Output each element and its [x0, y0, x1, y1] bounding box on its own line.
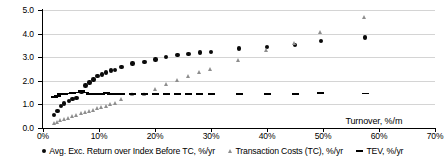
- data-point-circle: [104, 70, 108, 74]
- chart-legend: Avg. Exc. Return over Index Before TC, %…: [0, 146, 445, 156]
- data-point-dash: [118, 93, 125, 95]
- data-point-circle: [142, 60, 146, 64]
- legend-label-transaction-costs: Transaction Costs (TC), %/yr: [235, 146, 342, 156]
- data-point-dash: [264, 93, 271, 95]
- data-point-triangle: [62, 117, 66, 121]
- data-point-circle: [153, 57, 157, 61]
- data-point-triangle: [95, 106, 99, 110]
- y-tick-label: 1.0: [0, 100, 34, 109]
- data-point-circle: [62, 101, 66, 105]
- data-point-triangle: [119, 97, 123, 101]
- data-point-triangle: [197, 70, 201, 74]
- legend-label-avg-exc-return: Avg. Exc. Return over Index Before TC, %…: [49, 146, 215, 156]
- data-point-triangle: [113, 101, 117, 105]
- data-point-circle: [113, 68, 117, 72]
- data-point-circle: [209, 50, 213, 54]
- data-point-triangle: [99, 105, 103, 109]
- y-tick-label: 3.0: [0, 53, 34, 62]
- data-point-triangle: [74, 113, 78, 117]
- data-point-dash: [196, 93, 203, 95]
- data-point-circle: [119, 65, 123, 69]
- data-point-dash: [129, 93, 136, 95]
- legend-item-avg-exc-return: Avg. Exc. Return over Index Before TC, %…: [42, 146, 215, 156]
- x-tick-label: 0%: [23, 132, 63, 141]
- x-tick-label: 10%: [79, 132, 119, 141]
- x-axis-line: [42, 128, 436, 129]
- data-point-triangle: [208, 67, 212, 71]
- chart-container: 0.01.02.03.04.05.0 0%10%20%30%40%50%60%7…: [0, 0, 445, 163]
- data-point-dash: [163, 93, 170, 95]
- data-point-circle: [175, 53, 179, 57]
- data-point-triangle: [318, 30, 322, 34]
- data-point-triangle: [362, 15, 366, 19]
- x-tick-label: 20%: [135, 132, 175, 141]
- x-axis-title: Turnover, %/m: [345, 116, 402, 126]
- data-point-circle: [130, 61, 134, 65]
- legend-item-tev: TEV, %/yr: [356, 146, 403, 156]
- x-tick-label: 30%: [191, 132, 231, 141]
- data-point-dash: [317, 92, 324, 94]
- y-tick-label: 4.0: [0, 30, 34, 39]
- x-tick-label: 70%: [415, 132, 445, 141]
- data-point-triangle: [164, 82, 168, 86]
- circle-marker-icon: [42, 149, 46, 153]
- data-point-dash: [185, 93, 192, 95]
- data-point-triangle: [108, 102, 112, 106]
- data-point-dash: [152, 93, 159, 95]
- data-point-circle: [237, 46, 241, 50]
- y-tick-label: 2.0: [0, 77, 34, 86]
- x-tick-label: 50%: [303, 132, 343, 141]
- data-point-triangle: [104, 104, 108, 108]
- data-point-circle: [95, 74, 99, 78]
- data-point-triangle: [292, 41, 296, 45]
- data-point-triangle: [153, 87, 157, 91]
- triangle-marker-icon: [228, 149, 232, 153]
- data-point-circle: [198, 50, 202, 54]
- data-point-dash: [236, 93, 243, 95]
- data-point-dash: [362, 93, 369, 95]
- data-point-dash: [54, 95, 61, 97]
- y-tick-label: 5.0: [0, 6, 34, 15]
- data-point-dash: [208, 93, 215, 95]
- data-point-dash: [292, 93, 299, 95]
- data-point-dash: [141, 93, 148, 95]
- data-point-circle: [74, 96, 78, 100]
- dash-marker-icon: [356, 150, 363, 152]
- data-point-dash: [174, 93, 181, 95]
- x-tick-label: 40%: [247, 132, 287, 141]
- data-point-triangle: [175, 78, 179, 82]
- data-point-circle: [52, 113, 56, 117]
- legend-item-transaction-costs: Transaction Costs (TC), %/yr: [228, 146, 343, 156]
- data-point-circle: [164, 55, 168, 59]
- data-point-circle: [91, 77, 95, 81]
- data-point-circle: [319, 39, 323, 43]
- data-point-circle: [363, 35, 367, 39]
- data-point-triangle: [186, 74, 190, 78]
- x-tick-label: 60%: [359, 132, 399, 141]
- data-point-circle: [186, 52, 190, 56]
- data-point-triangle: [264, 48, 268, 52]
- data-point-triangle: [236, 58, 240, 62]
- legend-label-tev: TEV, %/yr: [366, 146, 403, 156]
- plot-area: [43, 10, 435, 128]
- data-point-circle: [55, 109, 59, 113]
